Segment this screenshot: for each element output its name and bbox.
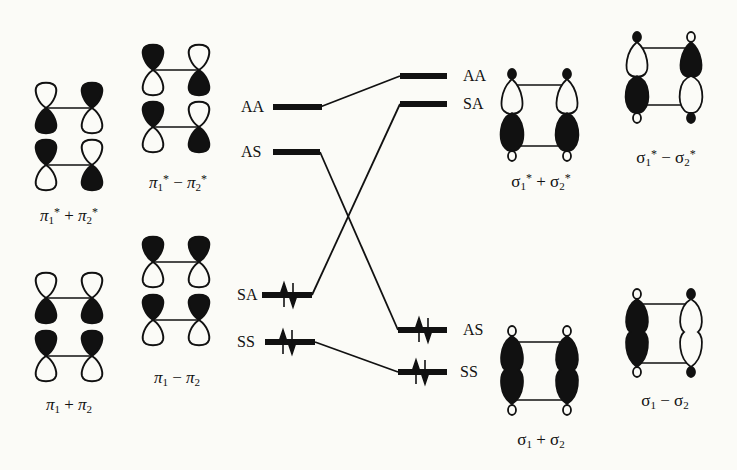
label-sigma-star-minus: σ1* − σ2* <box>636 148 695 168</box>
level-left-aa <box>273 104 322 110</box>
label-pi-star-plus: π1* + π2* <box>40 206 98 226</box>
level-right-sa <box>400 101 447 107</box>
level-left-sa <box>262 292 312 298</box>
level-right-aa <box>400 73 447 79</box>
level-right-as <box>398 327 447 333</box>
correlation-sa <box>312 104 400 295</box>
label-pi-plus: π1 + π2 <box>46 396 92 415</box>
orbital-pi-minus <box>143 237 209 346</box>
correlation-lines <box>312 76 400 372</box>
correlation-as <box>320 152 398 330</box>
level-left-as <box>273 149 320 155</box>
label-sigma-plus: σ1 + σ2 <box>517 431 564 450</box>
correlation-ss <box>315 342 398 372</box>
orbital-sigma-plus <box>501 326 578 415</box>
level-label-right-ss: SS <box>460 364 478 380</box>
level-label-right-as: AS <box>463 322 483 338</box>
orbital-sigma-star-plus <box>501 69 579 161</box>
orbital-pi-star-minus <box>143 45 209 153</box>
level-right-ss <box>398 369 447 375</box>
label-sigma-minus: σ1 − σ2 <box>641 392 688 411</box>
orbital-correlation-diagram <box>0 0 737 470</box>
level-label-right-sa: SA <box>463 96 483 112</box>
level-label-right-aa: AA <box>463 68 486 84</box>
level-label-left-aa: AA <box>241 99 264 115</box>
orbital-pi-star-plus <box>36 83 102 191</box>
level-label-left-as: AS <box>241 144 261 160</box>
level-label-left-ss: SS <box>237 334 255 350</box>
label-sigma-star-plus: σ1* + σ2* <box>511 172 570 192</box>
orbital-sigma-star-minus <box>626 32 703 123</box>
orbital-pi-plus <box>36 273 102 382</box>
correlation-aa <box>320 76 400 107</box>
level-label-left-sa: SA <box>237 287 257 303</box>
label-pi-minus: π1 − π2 <box>154 369 200 388</box>
orbital-sigma-minus <box>626 289 702 377</box>
label-pi-star-minus: π1* − π2* <box>149 173 207 193</box>
electron-pairs <box>280 283 431 384</box>
level-left-ss <box>265 339 315 345</box>
